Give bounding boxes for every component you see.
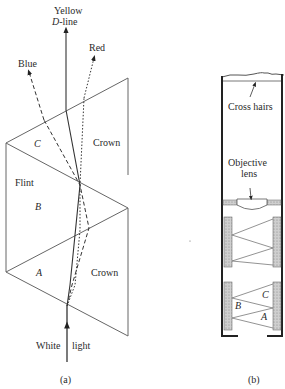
blue-ray-path	[44, 120, 89, 306]
objective-lens-pointer	[250, 188, 251, 198]
telescope-tube	[221, 73, 284, 336]
cross-hairs-pointer	[250, 84, 255, 97]
upper-prism-right-block	[273, 217, 281, 267]
upper-prism-left-block	[224, 217, 232, 267]
label-cross-hairs: Cross hairs	[228, 101, 273, 112]
label-crown-top: Crown	[93, 137, 120, 148]
label-b: B	[35, 201, 41, 212]
label-flint: Flint	[15, 177, 34, 188]
tube-top-edge	[222, 73, 284, 77]
label-objective: Objective	[228, 157, 267, 168]
blue-ray	[29, 72, 44, 120]
label-red: Red	[89, 42, 105, 53]
lens-mount-right	[267, 200, 281, 205]
prism-top-edge	[6, 78, 128, 143]
upper-prism-lines	[232, 219, 273, 265]
label-c: C	[34, 138, 41, 149]
label-white: White	[36, 340, 61, 351]
caption-b: (b)	[248, 374, 260, 386]
light-rays	[29, 30, 94, 362]
label-a: A	[35, 267, 43, 278]
yellow-ray-path	[66, 110, 80, 306]
diagram-canvas: Yellow D-line Blue Red Crown C Flint B A…	[0, 0, 285, 389]
label-b-a: A	[260, 311, 268, 322]
flint-top-edge	[6, 143, 128, 208]
red-ray	[84, 58, 94, 98]
label-b-c: C	[262, 289, 269, 300]
label-yellow: Yellow	[54, 5, 83, 16]
lens-mount-left	[223, 200, 237, 205]
caption-a: (a)	[60, 374, 71, 386]
label-lens: lens	[241, 168, 257, 179]
label-d-line: D-line	[51, 16, 78, 27]
stray-dot	[189, 240, 190, 241]
objective-lens	[237, 199, 267, 210]
lower-prism-right-block	[273, 282, 281, 330]
label-crown-bottom: Crown	[91, 267, 118, 278]
flint-bottom-edge	[6, 208, 128, 272]
label-blue: Blue	[18, 58, 37, 69]
label-light: light	[72, 340, 91, 351]
lower-prism-left-block	[224, 282, 232, 330]
label-b-b: B	[235, 300, 241, 311]
